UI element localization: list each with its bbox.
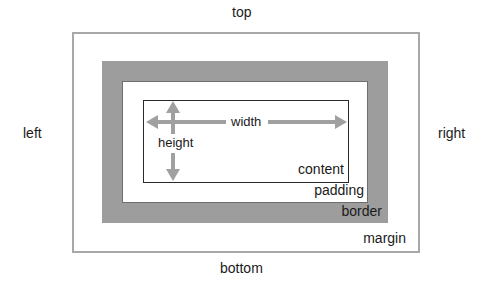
padding-label: padding bbox=[300, 182, 364, 198]
content-label: content bbox=[280, 161, 344, 177]
width-label: width bbox=[231, 114, 261, 130]
margin-label: margin bbox=[326, 230, 406, 246]
height-label: height bbox=[158, 135, 193, 151]
dimension-arrows bbox=[0, 0, 490, 282]
border-label: border bbox=[318, 203, 382, 219]
